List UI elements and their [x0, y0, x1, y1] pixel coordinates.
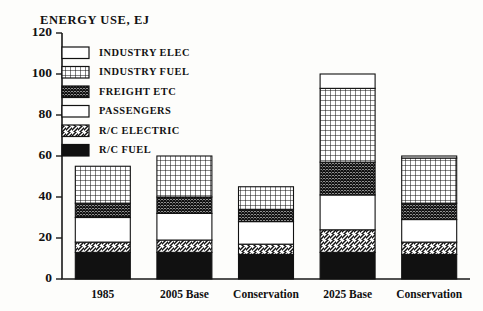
chart-legend: INDUSTRY ELECINDUSTRY FUELFREIGHT ETCPAS…: [62, 47, 190, 156]
legend-item-0: INDUSTRY ELEC: [62, 47, 190, 59]
legend-label: R/C FUEL: [99, 144, 151, 155]
legend-swatch: [62, 86, 89, 98]
bar-segment: [239, 244, 294, 254]
y-tick-20: 20: [39, 229, 63, 244]
bar-segment: [402, 203, 457, 219]
bar-segment: [320, 230, 375, 253]
bar-segment: [239, 254, 294, 279]
y-axis-ticks: 0 20 40 60 80 100: [32, 24, 62, 285]
category-label-3: 2025 Base: [323, 288, 372, 300]
chart-title: ENERGY USE, EJ: [40, 13, 150, 27]
y-tick-label-0: 0: [45, 270, 52, 285]
bar-segment: [402, 158, 457, 203]
bar-segment: [157, 213, 212, 240]
bar-segment: [157, 240, 212, 252]
category-label-1: 2005 Base: [160, 288, 209, 300]
legend-swatch: [62, 47, 89, 59]
bar-segment: [157, 252, 212, 279]
bar-segment: [402, 254, 457, 279]
category-label-0: 1985: [91, 288, 114, 300]
bar-group: [239, 187, 294, 279]
bar-segment: [75, 218, 130, 243]
bar-group: [157, 156, 212, 279]
y-tick-label-40: 40: [39, 188, 53, 203]
legend-label: INDUSTRY ELEC: [99, 47, 190, 58]
legend-label: PASSENGERS: [99, 105, 171, 116]
chart-svg: ENERGY USE, EJ 0 20 40 60 80: [0, 0, 483, 311]
y-tick-0: 0: [45, 270, 62, 285]
bar-segment: [239, 209, 294, 221]
bar-segment: [75, 166, 130, 203]
bar-group: [75, 166, 130, 279]
bar-segment: [239, 222, 294, 245]
y-tick-label-100: 100: [32, 65, 53, 80]
y-tick-label-80: 80: [39, 106, 53, 121]
category-label-4: Conservation: [396, 288, 462, 300]
legend-swatch: [62, 106, 89, 118]
legend-item-1: INDUSTRY FUEL: [62, 66, 189, 78]
legend-label: FREIGHT ETC: [99, 86, 176, 97]
bar-group: [320, 74, 375, 279]
y-tick-100: 100: [32, 65, 62, 80]
bar-segment: [75, 203, 130, 217]
bar-segment: [157, 197, 212, 213]
bar-segment: [320, 74, 375, 88]
bar-segment: [320, 195, 375, 230]
y-tick-label-20: 20: [39, 229, 53, 244]
bar-segment: [402, 242, 457, 254]
bar-segment: [402, 156, 457, 158]
legend-label: R/C ELECTRIC: [99, 125, 180, 136]
legend-swatch: [62, 125, 89, 137]
bar-segment: [402, 220, 457, 243]
bar-segment: [320, 252, 375, 279]
y-tick-40: 40: [39, 188, 63, 203]
legend-swatch: [62, 67, 89, 79]
bar-segment: [75, 252, 130, 279]
y-tick-label-60: 60: [39, 147, 53, 162]
legend-item-3: PASSENGERS: [62, 105, 171, 117]
legend-swatch: [62, 145, 89, 157]
bar-segment: [75, 242, 130, 252]
y-tick-label-120: 120: [32, 24, 53, 39]
category-label-2: Conservation: [233, 288, 299, 300]
bar-segment: [239, 187, 294, 210]
bar-segment: [157, 156, 212, 197]
legend-item-5: R/C FUEL: [62, 144, 151, 156]
legend-label: INDUSTRY FUEL: [99, 66, 189, 77]
bar-segment: [320, 88, 375, 162]
legend-item-2: FREIGHT ETC: [62, 86, 176, 98]
category-labels: 19852005 BaseConservation2025 BaseConser…: [91, 288, 462, 300]
y-tick-80: 80: [39, 106, 63, 121]
legend-item-4: R/C ELECTRIC: [62, 125, 180, 137]
bar-segment: [320, 162, 375, 195]
y-tick-60: 60: [39, 147, 63, 162]
bar-group: [402, 156, 457, 279]
energy-use-stacked-bar-chart: ENERGY USE, EJ 0 20 40 60 80: [0, 0, 483, 311]
